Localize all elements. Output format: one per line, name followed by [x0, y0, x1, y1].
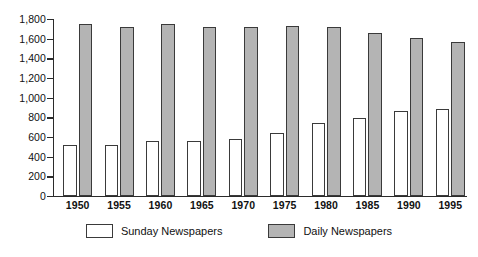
y-axis-tick-mark	[47, 39, 54, 40]
bar-group	[223, 12, 264, 196]
bar-sunday-newspapers	[187, 141, 201, 196]
bar-sunday-newspapers	[105, 145, 119, 196]
bar-group	[98, 12, 139, 196]
y-axis-tick-mark	[47, 117, 54, 118]
bar-sunday-newspapers	[146, 141, 160, 196]
bar-sunday-newspapers	[312, 123, 326, 196]
bar-sunday-newspapers	[394, 111, 408, 197]
chart-legend: Sunday NewspapersDaily Newspapers	[0, 224, 478, 238]
bar-daily-newspapers	[286, 26, 300, 196]
bar-sunday-newspapers	[229, 139, 243, 196]
bar-daily-newspapers	[120, 27, 134, 196]
y-axis-tick-mark	[47, 176, 54, 177]
y-axis-tick-mark	[47, 157, 54, 158]
bar-group	[430, 12, 471, 196]
x-axis-tick-label: 1960	[149, 199, 173, 211]
x-axis-tick-label: 1985	[356, 199, 380, 211]
bar-daily-newspapers	[244, 27, 258, 196]
bar-group	[181, 12, 222, 196]
y-axis-tick-label: 600	[28, 131, 46, 143]
x-axis-tick-label: 1995	[438, 199, 462, 211]
x-axis-tick-label: 1990	[397, 199, 421, 211]
x-axis-tick-label: 1965	[190, 199, 214, 211]
bar-group	[388, 12, 429, 196]
y-axis-tick-mark	[47, 58, 54, 59]
x-axis-tick-label: 1980	[314, 199, 338, 211]
bar-sunday-newspapers	[270, 133, 284, 196]
bar-chart: 02004006008001,0001,2001,4001,6001,800 1…	[0, 0, 478, 257]
bar-sunday-newspapers	[353, 118, 367, 197]
y-axis-tick-mark	[47, 78, 54, 79]
y-axis-tick-mark	[47, 196, 54, 197]
bar-daily-newspapers	[79, 24, 93, 196]
y-axis-tick-label: 200	[28, 170, 46, 182]
gray-square-icon	[268, 224, 295, 238]
y-axis-line	[53, 19, 54, 197]
bar-daily-newspapers	[161, 24, 175, 196]
bar-daily-newspapers	[451, 42, 465, 196]
bar-daily-newspapers	[327, 27, 341, 196]
legend-item: Daily Newspapers	[268, 224, 392, 238]
white-square-icon	[86, 224, 113, 238]
y-axis-tick-label: 1,000	[19, 92, 46, 104]
legend-item: Sunday Newspapers	[86, 224, 223, 238]
y-axis-tick-label: 1,200	[19, 72, 46, 84]
legend-label: Daily Newspapers	[303, 225, 392, 237]
bar-group	[140, 12, 181, 196]
y-axis-tick-label: 1,400	[19, 52, 46, 64]
bar-sunday-newspapers	[436, 109, 450, 196]
bar-daily-newspapers	[368, 33, 382, 196]
y-axis-tick-label: 1,600	[19, 33, 46, 45]
x-axis-tick-label: 1950	[66, 199, 90, 211]
bar-group	[305, 12, 346, 196]
y-axis-tick-label: 800	[28, 111, 46, 123]
x-axis-labels: 1950195519601965197019751980198519901995	[53, 199, 467, 215]
plot-area	[53, 12, 467, 197]
y-axis-tick-mark	[47, 137, 54, 138]
legend-label: Sunday Newspapers	[121, 225, 223, 237]
x-axis-tick-label: 1955	[107, 199, 131, 211]
x-axis-tick-label: 1970	[231, 199, 255, 211]
bar-group	[347, 12, 388, 196]
y-axis-tick-label: 400	[28, 151, 46, 163]
bar-sunday-newspapers	[63, 145, 77, 196]
bar-group	[57, 12, 98, 196]
x-axis-tick-label: 1975	[273, 199, 297, 211]
y-axis-tick-label: 0	[40, 190, 46, 202]
y-axis-labels: 02004006008001,0001,2001,4001,6001,800	[0, 12, 46, 197]
bar-group	[264, 12, 305, 196]
y-axis-tick-mark	[47, 19, 54, 20]
bar-daily-newspapers	[410, 38, 424, 196]
y-axis-tick-mark	[47, 98, 54, 99]
y-axis-tick-label: 1,800	[19, 13, 46, 25]
bar-daily-newspapers	[203, 27, 217, 196]
